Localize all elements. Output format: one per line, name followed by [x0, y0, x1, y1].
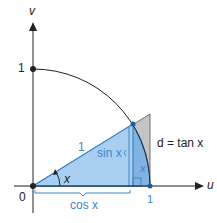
tangent-label: d = tan x: [157, 136, 203, 150]
y-tick-label: 1: [18, 61, 25, 75]
point-1-0: [148, 184, 153, 189]
v-axis-label: v: [29, 4, 35, 18]
point-0-1: [30, 66, 36, 72]
x-tick-label: 1: [147, 193, 153, 205]
unit-circle-diagram: [0, 0, 217, 223]
angle-label: x: [64, 172, 70, 186]
circle-point: [131, 122, 136, 127]
origin-label: 0: [19, 190, 26, 204]
origin-point: [30, 183, 36, 189]
cos-label: cos x: [70, 198, 98, 212]
u-axis-label: u: [207, 178, 214, 192]
sin-label: sin x: [97, 146, 122, 160]
hypotenuse-label: 1: [78, 140, 85, 154]
arc-length-label: x: [140, 162, 146, 174]
